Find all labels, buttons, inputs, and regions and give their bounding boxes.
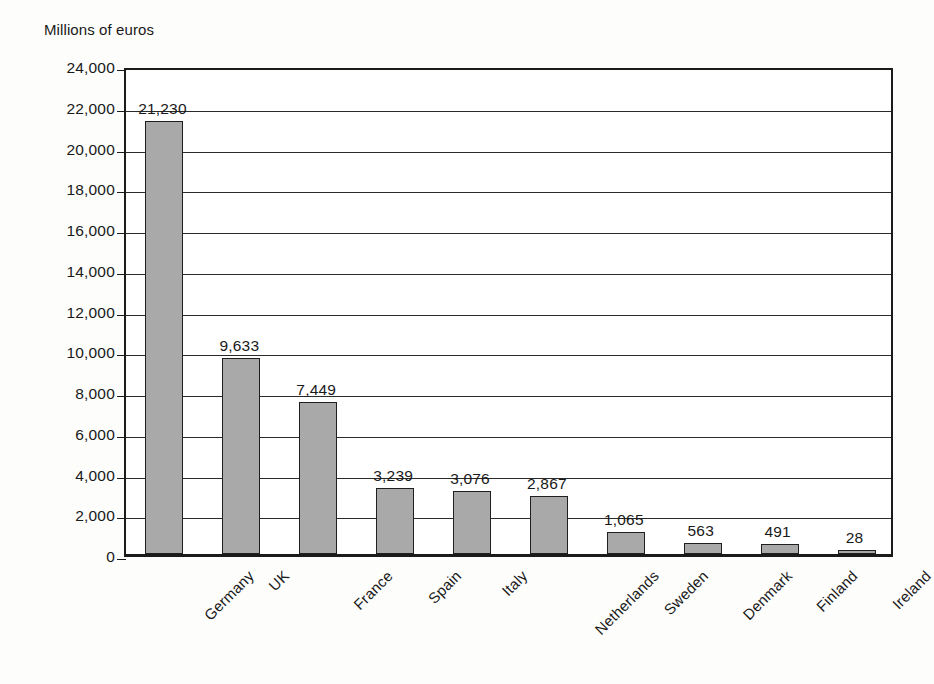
- bar-value-label: 9,633: [219, 337, 259, 355]
- y-axis-tick: [117, 70, 126, 71]
- y-axis-tick: [117, 192, 126, 193]
- bar-value-label: 563: [688, 522, 714, 540]
- y-axis-tick: [117, 233, 126, 234]
- y-axis-tick: [117, 478, 126, 479]
- y-axis-labels: 02,0004,0006,0008,00010,00012,00014,0001…: [0, 0, 115, 684]
- bar: [376, 488, 414, 554]
- x-axis-category-label: Ireland: [888, 567, 933, 612]
- y-axis-tick-label: 18,000: [66, 181, 115, 199]
- gridline: [126, 192, 891, 193]
- y-axis-tick: [117, 518, 126, 519]
- x-axis-category-label: UK: [266, 567, 293, 594]
- bar: [607, 532, 645, 554]
- y-axis-tick: [117, 559, 126, 560]
- y-axis-tick: [117, 396, 126, 397]
- bar-value-label: 3,076: [450, 470, 490, 488]
- y-axis-tick-label: 16,000: [66, 222, 115, 240]
- y-axis-tick-label: 0: [106, 548, 115, 566]
- plot-area: [124, 68, 893, 557]
- x-axis-category-label: Spain: [425, 567, 465, 607]
- bar: [530, 496, 568, 554]
- x-axis-category-label: France: [350, 567, 396, 613]
- bar: [838, 550, 876, 554]
- gridline: [126, 111, 891, 112]
- gridline: [126, 355, 891, 356]
- bar: [761, 544, 799, 554]
- y-axis-tick-label: 24,000: [66, 59, 115, 77]
- gridline: [126, 233, 891, 234]
- y-axis-tick-label: 22,000: [66, 100, 115, 118]
- x-axis-category-label: Italy: [498, 567, 530, 599]
- y-axis-tick: [117, 315, 126, 316]
- bar-value-label: 3,239: [373, 467, 413, 485]
- bar-value-label: 7,449: [296, 381, 336, 399]
- y-axis-tick: [117, 152, 126, 153]
- bar-value-label: 28: [846, 529, 864, 547]
- y-axis-tick: [117, 274, 126, 275]
- bar: [299, 402, 337, 554]
- y-axis-tick: [117, 437, 126, 438]
- y-axis-tick: [117, 355, 126, 356]
- y-axis-tick-label: 2,000: [75, 507, 115, 525]
- x-axis-category-label: Germany: [201, 567, 258, 624]
- bar-value-label: 21,230: [138, 100, 187, 118]
- x-axis-category-label: Netherlands: [591, 567, 662, 638]
- bar: [222, 358, 260, 554]
- bar: [453, 491, 491, 554]
- gridline: [126, 315, 891, 316]
- y-axis-tick-label: 14,000: [66, 263, 115, 281]
- y-axis-tick-label: 4,000: [75, 467, 115, 485]
- y-axis-tick-label: 6,000: [75, 426, 115, 444]
- bar-value-label: 1,065: [604, 511, 644, 529]
- bar: [684, 543, 722, 554]
- gridline: [126, 274, 891, 275]
- y-axis-tick-label: 20,000: [66, 141, 115, 159]
- x-axis-category-label: Sweden: [660, 567, 711, 618]
- bar-value-label: 2,867: [527, 475, 567, 493]
- gridline: [126, 152, 891, 153]
- y-axis-tick-label: 8,000: [75, 385, 115, 403]
- y-axis-tick-label: 10,000: [66, 344, 115, 362]
- x-axis-category-label: Denmark: [739, 567, 795, 623]
- x-axis-category-label: Finland: [812, 567, 860, 615]
- bar-value-label: 491: [764, 523, 790, 541]
- y-axis-tick-label: 12,000: [66, 304, 115, 322]
- y-axis-tick: [117, 111, 126, 112]
- bar: [145, 121, 183, 554]
